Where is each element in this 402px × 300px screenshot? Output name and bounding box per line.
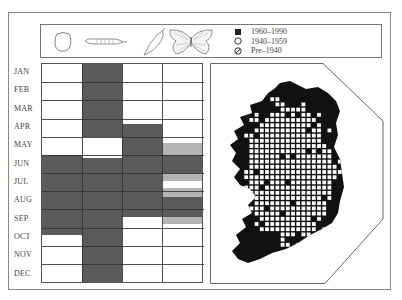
caterpillar-icon: [83, 35, 127, 47]
month-label: FEB: [14, 81, 40, 99]
row-divider: [42, 82, 204, 83]
butterfly-icon: [166, 27, 216, 57]
month-label: DEC: [14, 265, 40, 283]
month-label: OCT: [14, 228, 40, 246]
row-divider: [42, 173, 204, 174]
month-label: JUN: [14, 155, 40, 173]
phenology-grid: [41, 63, 203, 283]
month-label: AUG: [14, 191, 40, 209]
row-divider: [42, 264, 204, 265]
activity-band: [162, 173, 202, 181]
stage-legend-header: 1960–1990 1940–1959 Pre–1940: [40, 24, 382, 58]
activity-band: [42, 155, 82, 235]
row-divider: [42, 155, 204, 156]
row-divider: [42, 119, 204, 120]
activity-band: [162, 155, 202, 173]
row-divider: [42, 228, 204, 229]
legend-label: 1940–1959: [251, 37, 287, 47]
month-label: MAY: [14, 136, 40, 154]
legend-item-1960-1990: 1960–1990: [234, 27, 287, 37]
slashed-circle-icon: [234, 47, 242, 55]
month-label: APR: [14, 118, 40, 136]
row-divider: [42, 100, 204, 101]
period-legend: 1960–1990 1940–1959 Pre–1940: [234, 27, 287, 56]
legend-label: Pre–1940: [251, 46, 282, 56]
activity-band: [162, 217, 202, 224]
legend-label: 1960–1990: [251, 27, 287, 37]
distribution-map: [210, 63, 384, 284]
month-label: JAN: [14, 63, 40, 81]
row-divider: [42, 209, 204, 210]
activity-band: [162, 197, 202, 217]
month-label: MAR: [14, 100, 40, 118]
month-label: JUL: [14, 173, 40, 191]
activity-band: [162, 143, 202, 155]
column-divider: [82, 64, 83, 282]
month-label: NOV: [14, 246, 40, 264]
activity-band: [122, 124, 162, 217]
activity-band: [162, 188, 202, 196]
column-divider: [122, 64, 123, 282]
legend-item-pre-1940: Pre–1940: [234, 46, 287, 56]
filled-square-icon: [234, 28, 242, 36]
month-label: SEP: [14, 210, 40, 228]
egg-icon: [53, 31, 73, 53]
row-divider: [42, 246, 204, 247]
open-circle-icon: [234, 37, 242, 45]
row-divider: [42, 191, 204, 192]
row-divider: [42, 137, 204, 138]
chrysalis-icon: [141, 27, 167, 57]
column-divider: [162, 64, 163, 282]
month-labels: JAN FEB MAR APR MAY JUN JUL AUG SEP OCT …: [14, 63, 40, 283]
legend-item-1940-1959: 1940–1959: [234, 37, 287, 47]
